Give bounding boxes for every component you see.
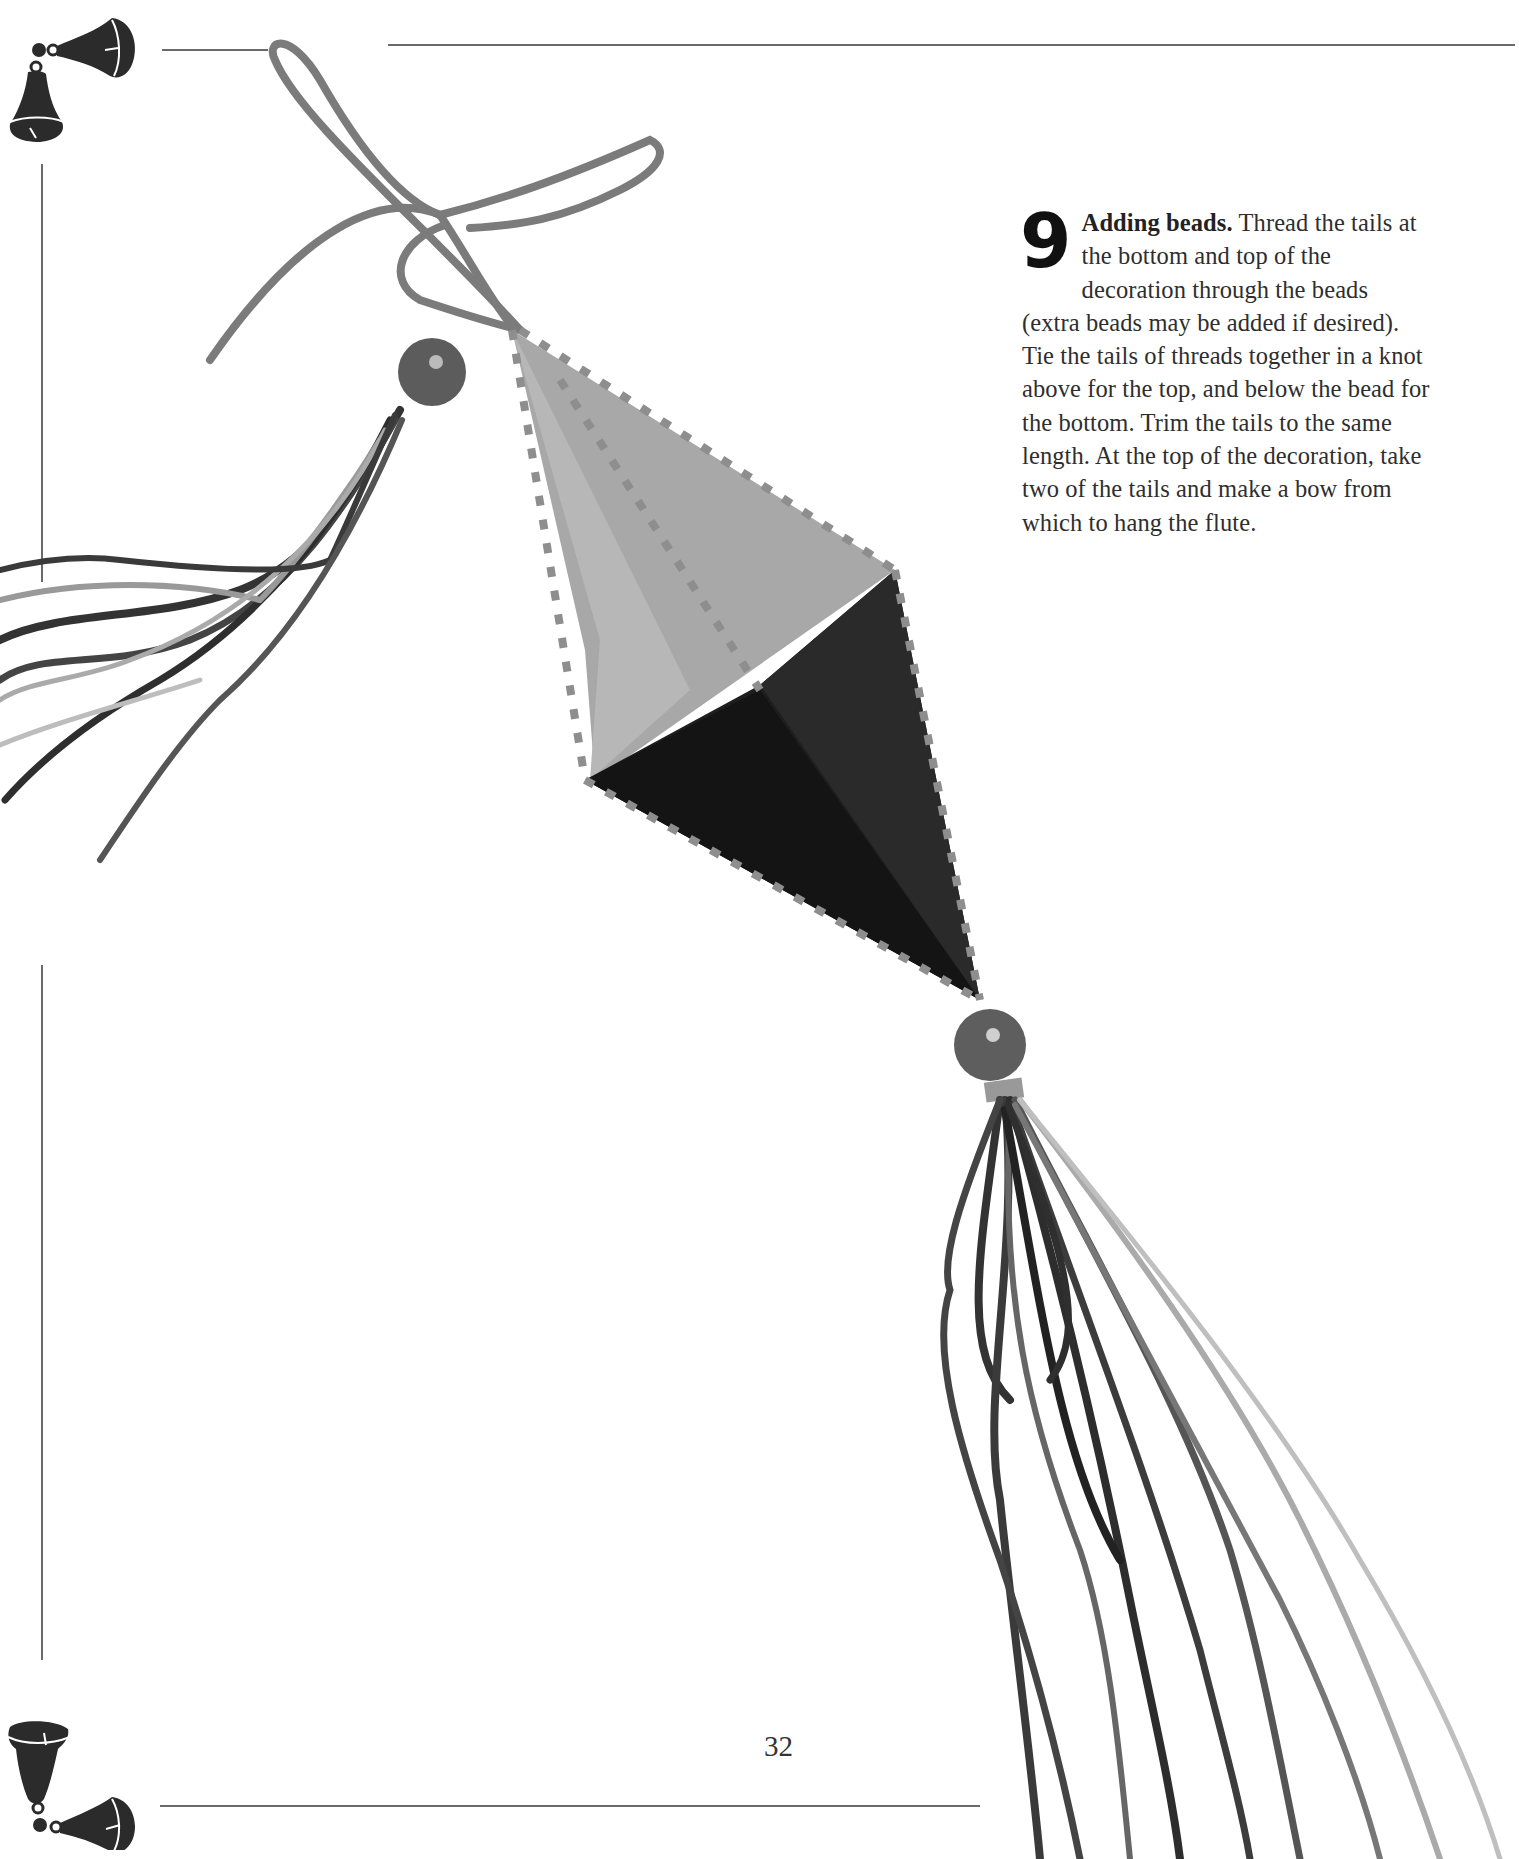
bottom-bead: [954, 1009, 1026, 1081]
bottom-tassel: [944, 1100, 1500, 1859]
ribbon-bow: [210, 44, 660, 360]
page-number: 32: [764, 1730, 793, 1763]
step-body: Thread the tails at the bottom and top o…: [1022, 209, 1430, 536]
step-instruction: 9Adding beads. Thread the tails at the b…: [1022, 206, 1432, 539]
top-bead: [398, 338, 466, 406]
step-number: 9: [1020, 212, 1072, 274]
flute-ornament: [512, 330, 980, 1000]
step-title: Adding beads.: [1082, 209, 1233, 236]
top-tassel: [0, 410, 402, 860]
